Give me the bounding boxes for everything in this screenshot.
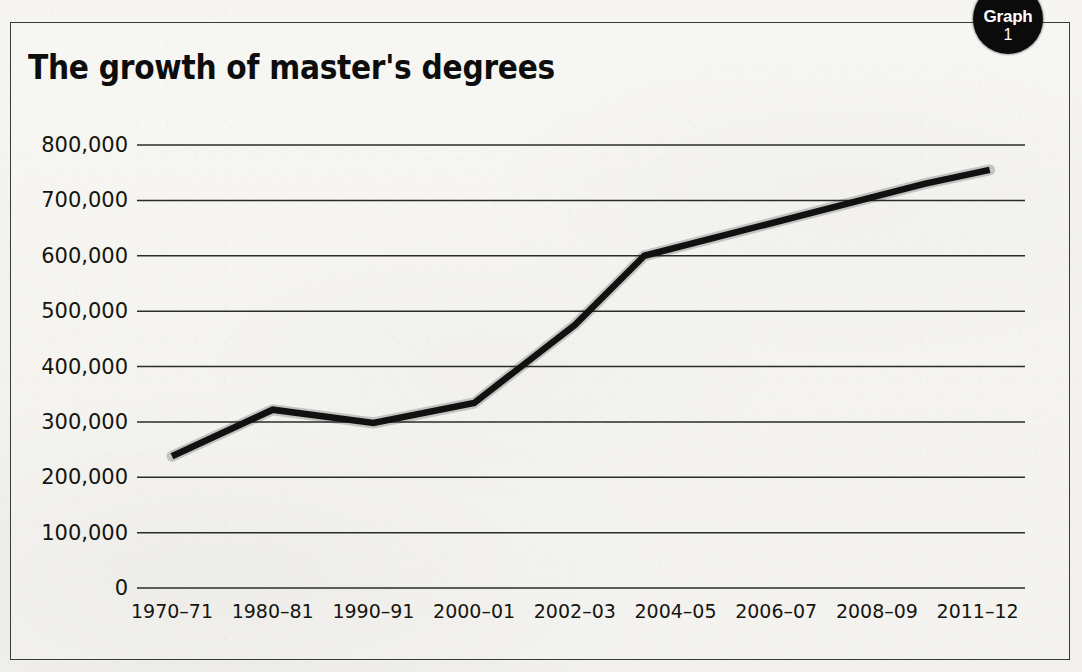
graph-badge-label: Graph (983, 8, 1032, 25)
chart-frame-border (10, 22, 1070, 660)
y-tick-label: 200,000 (8, 465, 128, 489)
graph-badge-number: 1 (1004, 27, 1013, 43)
x-tick-label: 2011–12 (918, 600, 1038, 622)
y-tick-label: 400,000 (8, 355, 128, 379)
bleed-through-text (18, 1, 1018, 15)
y-axis-tick-labels: 0100,000200,000300,000400,000500,000600,… (8, 0, 128, 672)
y-tick-label: 0 (8, 576, 128, 600)
y-tick-label: 100,000 (8, 521, 128, 545)
y-tick-label: 500,000 (8, 299, 128, 323)
y-tick-label: 700,000 (8, 188, 128, 212)
y-tick-label: 600,000 (8, 244, 128, 268)
y-tick-label: 800,000 (8, 133, 128, 157)
scanned-page-background: The growth of master's degrees 0100,0002… (0, 0, 1082, 672)
y-tick-label: 300,000 (8, 410, 128, 434)
